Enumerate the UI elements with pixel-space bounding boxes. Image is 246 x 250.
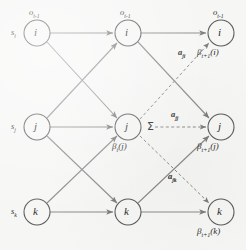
state-label-i: si	[11, 28, 16, 39]
transition-label-a-ji: aji	[178, 48, 185, 59]
state-label-k: sk	[11, 207, 17, 218]
summation-symbol: Σ	[147, 121, 154, 132]
beta-label-mid-j: βt(j)	[112, 142, 127, 153]
node-label-left-i: i	[34, 27, 37, 38]
node-label-right-k: k	[217, 206, 222, 217]
node-label-mid-k: k	[124, 206, 129, 217]
node-label-left-j: j	[34, 121, 37, 132]
state-label-j: sj	[11, 122, 16, 133]
beta-label-right-k: βt+1(k)	[197, 227, 220, 238]
node-label-mid-j: j	[125, 121, 128, 132]
node-label-right-i: i	[218, 27, 221, 38]
node-label-mid-i: i	[125, 27, 128, 38]
trellis-diagram-figure: ot-1 ot-1 ot-1 si sj sk i j k i j k i j …	[0, 0, 246, 250]
transition-label-a-jj: ajj	[171, 110, 178, 121]
transition-label-a-jk: ajk	[168, 172, 177, 183]
observation-label-mid: ot-1	[120, 8, 131, 19]
node-label-left-k: k	[33, 206, 38, 217]
beta-label-right-j: βt+1(j)	[197, 142, 219, 153]
observation-label-left: ot-1	[29, 8, 40, 19]
node-label-right-j: j	[218, 121, 221, 132]
beta-label-right-i: βt+1(i)	[197, 48, 219, 59]
observation-label-right: ot-1	[213, 8, 224, 19]
